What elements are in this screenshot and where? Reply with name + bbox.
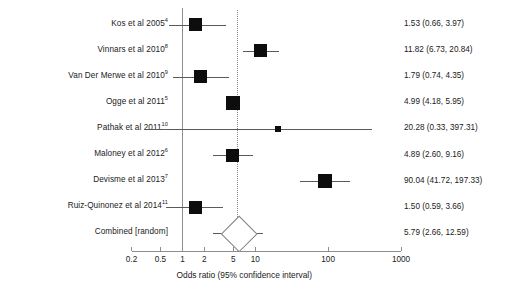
summary-value-label: 5.79 (2.66, 12.59) xyxy=(404,229,469,237)
effect-value-column: 1.53 (0.66, 3.97)11.82 (6.73, 20.84)1.79… xyxy=(404,0,506,289)
effect-value-label: 1.50 (0.59, 3.66) xyxy=(404,203,464,211)
effect-estimate-box xyxy=(194,70,207,83)
effect-estimate-box xyxy=(318,174,332,188)
effect-estimate-box xyxy=(226,96,240,110)
x-axis-tick-label: 1 xyxy=(180,256,185,264)
effect-estimate-box xyxy=(189,18,202,31)
effect-value-label: 1.53 (0.66, 3.97) xyxy=(404,20,464,28)
effect-estimate-box xyxy=(189,201,202,214)
forest-plot: Kos et al 20054Vinnars et al 20108Van De… xyxy=(0,0,506,289)
effect-estimate-box xyxy=(275,126,281,132)
x-axis-tick-label: 10 xyxy=(251,256,260,264)
x-axis-tick-label: 5 xyxy=(231,256,236,264)
x-axis-tick xyxy=(182,247,183,251)
effect-value-label: 4.99 (4.18, 5.95) xyxy=(404,98,464,106)
effect-estimate-box xyxy=(226,149,239,162)
x-axis-tick xyxy=(131,247,132,251)
x-axis-tick xyxy=(233,247,234,251)
confidence-interval-line xyxy=(147,129,371,130)
x-axis-tick-label: 0.2 xyxy=(126,256,137,264)
x-axis-tick xyxy=(160,247,161,251)
x-axis-tick-label: 0.5 xyxy=(155,256,166,264)
x-axis-tick-label: 100 xyxy=(321,256,335,264)
effect-value-label: 11.82 (6.73, 20.84) xyxy=(404,46,473,54)
x-axis-tick xyxy=(255,247,256,251)
effect-value-label: 4.89 (2.60, 9.16) xyxy=(404,151,464,159)
x-axis-tick xyxy=(204,247,205,251)
summary-diamond xyxy=(220,216,257,253)
x-axis-tick xyxy=(401,247,402,251)
x-axis-title: Odds ratio (95% confidence interval) xyxy=(177,271,312,279)
effect-value-label: 90.04 (41.72, 197.33) xyxy=(404,177,482,185)
effect-value-label: 1.79 (0.74, 4.35) xyxy=(404,72,464,80)
x-axis-tick-label: 2 xyxy=(202,256,207,264)
x-axis-tick xyxy=(328,247,329,251)
effect-value-label: 20.28 (0.33, 397.31) xyxy=(404,124,478,132)
x-axis-line xyxy=(132,251,402,252)
effect-estimate-box xyxy=(254,44,267,57)
